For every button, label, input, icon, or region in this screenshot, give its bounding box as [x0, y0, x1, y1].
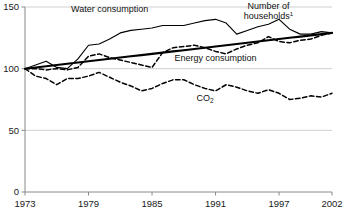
axis-lines — [25, 7, 332, 192]
series-label-energy-consumption: Energy consumption — [175, 53, 257, 63]
x-axis-ticks: 197319791985199119972002 — [14, 192, 342, 209]
chart-container: 050100150 197319791985199119972002 Water… — [0, 0, 343, 214]
x-tick-label-1973: 1973 — [14, 198, 35, 209]
series-line-number-of-households — [25, 33, 332, 69]
y-tick-label-50: 50 — [8, 125, 19, 136]
series-label-number-of-households-line2: households1 — [244, 11, 294, 21]
series-label-water-consumption: Water consumption — [71, 4, 148, 14]
x-tick-label-1991: 1991 — [205, 198, 226, 209]
y-axis-ticks: 050100150 — [3, 1, 25, 197]
series-line-co2 — [25, 69, 332, 100]
series-label-number-of-households: Number of — [247, 1, 290, 11]
line-chart: 050100150 197319791985199119972002 Water… — [0, 0, 343, 214]
y-tick-label-0: 0 — [14, 186, 19, 197]
x-tick-label-1985: 1985 — [141, 198, 162, 209]
x-tick-label-2002: 2002 — [321, 198, 342, 209]
x-tick-label-1997: 1997 — [268, 198, 289, 209]
y-tick-label-150: 150 — [3, 1, 19, 12]
y-tick-label-100: 100 — [3, 63, 19, 74]
series-label-co2: CO2 — [196, 93, 214, 105]
series-annotations: Water consumption Number of households1 … — [71, 1, 294, 104]
x-tick-label-1979: 1979 — [78, 198, 99, 209]
